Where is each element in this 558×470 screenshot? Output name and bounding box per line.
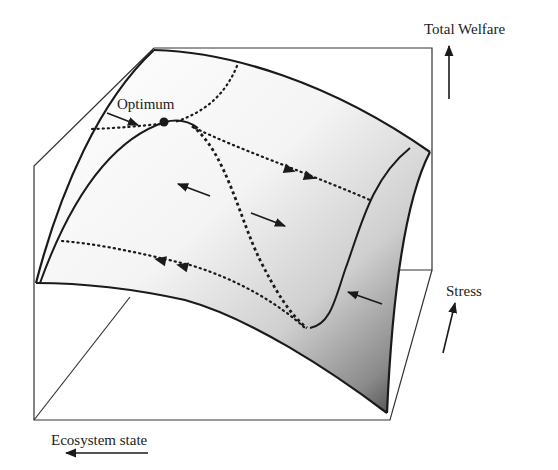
stress-axis-label: Stress [446, 283, 482, 299]
total-welfare-axis-label: Total Welfare [424, 21, 506, 37]
stress-axis-arrow-icon [443, 303, 455, 353]
box-floor-diagonal [34, 297, 130, 420]
optimum-point [160, 118, 169, 127]
surface-fill [36, 50, 430, 413]
optimum-label: Optimum [117, 96, 175, 112]
ecosystem-state-axis-label: Ecosystem state [51, 432, 148, 448]
welfare-surface [36, 50, 430, 413]
welfare-surface-diagram: Optimum Total Welfare Stress Ecosystem s… [0, 0, 558, 470]
